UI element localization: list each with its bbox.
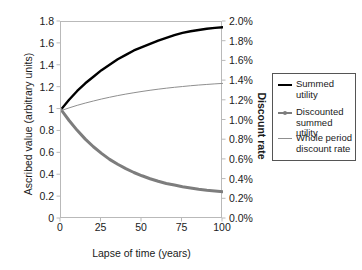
- y-axis-right-ticks: 0.0%0.2%0.4%0.6%0.8%1.0%1.2%1.4%1.6%1.8%…: [229, 0, 263, 270]
- y-axis-left-ticks: 00.20.40.60.811.21.41.61.8: [22, 0, 54, 270]
- y-tick-right: 1.2%: [229, 94, 263, 106]
- y-tick-right: 1.4%: [229, 74, 263, 86]
- y-tick-right: 1.0%: [229, 114, 263, 126]
- y-tick-right: 1.6%: [229, 54, 263, 66]
- legend-label: Summed utility: [296, 79, 355, 100]
- y-tick-left: 0.6: [22, 146, 54, 158]
- series-line: [61, 27, 223, 109]
- legend-item[interactable]: Whole period discount rate: [277, 133, 355, 154]
- y-tick-left: 1.4: [22, 59, 54, 71]
- y-tick-right: 0.0%: [229, 212, 263, 224]
- legend-line-swatch: [277, 79, 293, 91]
- plot-lines: [61, 22, 223, 219]
- y-tick-right: 0.8%: [229, 133, 263, 145]
- y-tick-right: 0.2%: [229, 192, 263, 204]
- series-line: [61, 110, 223, 192]
- y-tick-right: 0.6%: [229, 153, 263, 165]
- x-tick: 25: [95, 221, 107, 233]
- y-tick-left: 1.2: [22, 81, 54, 93]
- legend-marker-dot: [283, 111, 287, 115]
- chart-figure: Ascribed value (arbitrary units) Discoun…: [0, 0, 362, 270]
- y-tick-left: 1.6: [22, 37, 54, 49]
- legend-line-swatch: [277, 133, 293, 145]
- y-tick-left: 0.8: [22, 124, 54, 136]
- y-tick-right: 2.0%: [229, 15, 263, 27]
- y-tick-left: 1: [22, 103, 54, 115]
- x-axis-title: Lapse of time (years): [60, 247, 223, 259]
- legend-item[interactable]: Summed utility: [277, 79, 355, 100]
- series-line: [61, 83, 223, 110]
- legend-label: Whole period discount rate: [296, 133, 355, 154]
- y-tick-left: 0: [22, 212, 54, 224]
- chart-legend: Summed utilityDiscounted summed utilityW…: [272, 73, 356, 161]
- plot-area: [60, 21, 222, 218]
- y-tick-left: 1.8: [22, 15, 54, 27]
- x-tick: 75: [176, 221, 188, 233]
- x-tick: 100: [213, 221, 231, 233]
- y-tick-right: 1.8%: [229, 35, 263, 47]
- y-tick-left: 0.4: [22, 168, 54, 180]
- x-tick: 50: [135, 221, 147, 233]
- legend-line-swatch: [277, 107, 293, 119]
- y-tick-right: 0.4%: [229, 173, 263, 185]
- y-tick-left: 0.2: [22, 190, 54, 202]
- x-tick: 0: [57, 221, 63, 233]
